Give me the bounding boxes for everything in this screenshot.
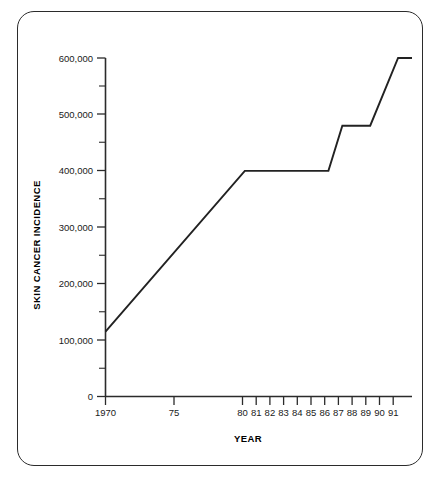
y-tick-label-400000: 400,000	[59, 165, 93, 176]
x-tick-label-87: 87	[333, 407, 344, 418]
x-tick-label-1970: 1970	[95, 407, 116, 418]
y-axis-tick-labels: 0 100,000 200,000 300,000 400,000 500,00…	[59, 53, 93, 403]
x-tick-label-80: 80	[237, 407, 248, 418]
x-tick-label-75: 75	[169, 407, 180, 418]
x-tick-label-90: 90	[374, 407, 385, 418]
y-tick-label-100000: 100,000	[59, 335, 93, 346]
x-axis-title: YEAR	[234, 433, 262, 444]
y-axis-title: SKIN CANCER INCIDENCE	[31, 180, 42, 309]
x-tick-label-83: 83	[278, 407, 289, 418]
x-tick-label-91: 91	[388, 407, 399, 418]
y-tick-label-200000: 200,000	[59, 278, 93, 289]
x-tick-label-82: 82	[265, 407, 276, 418]
x-tick-label-85: 85	[306, 407, 317, 418]
y-tick-label-600000: 600,000	[59, 53, 93, 64]
y-tick-label-500000: 500,000	[59, 109, 93, 120]
chart-figure: 0 100,000 200,000 300,000 400,000 500,00…	[0, 0, 443, 480]
x-axis-ticks	[106, 397, 394, 406]
x-tick-label-81: 81	[251, 407, 262, 418]
y-axis-major-ticks	[97, 58, 106, 397]
line-chart: 0 100,000 200,000 300,000 400,000 500,00…	[0, 0, 443, 480]
x-tick-label-88: 88	[347, 407, 358, 418]
x-axis-tick-labels: 1970 75 80 81 82 83 84 85 86 87 88 89 90…	[95, 407, 399, 418]
y-tick-label-0: 0	[88, 391, 93, 402]
x-tick-label-89: 89	[361, 407, 372, 418]
incidence-line-series	[106, 58, 413, 332]
y-tick-label-300000: 300,000	[59, 222, 93, 233]
x-tick-label-84: 84	[292, 407, 303, 418]
x-tick-label-86: 86	[319, 407, 330, 418]
